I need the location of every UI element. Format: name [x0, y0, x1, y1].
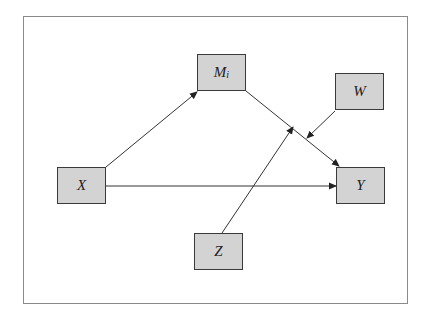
- node-w-label: W: [353, 83, 366, 100]
- node-w: W: [335, 73, 384, 110]
- node-m: Mi: [197, 54, 246, 91]
- node-x: X: [57, 167, 106, 204]
- node-z: Z: [194, 233, 243, 270]
- node-x-label: X: [77, 177, 86, 194]
- node-m-label: M: [214, 64, 227, 81]
- diagram-canvas: X Mi W Y Z: [0, 0, 429, 321]
- edges-layer: [0, 0, 429, 321]
- node-y: Y: [336, 167, 385, 204]
- node-z-label: Z: [214, 243, 222, 260]
- edge-z-moderates: [222, 127, 293, 233]
- edge-w-moderates: [307, 111, 335, 138]
- node-y-label: Y: [356, 177, 364, 194]
- node-m-subscript: i: [226, 69, 229, 80]
- edge-x-to-m: [106, 92, 197, 167]
